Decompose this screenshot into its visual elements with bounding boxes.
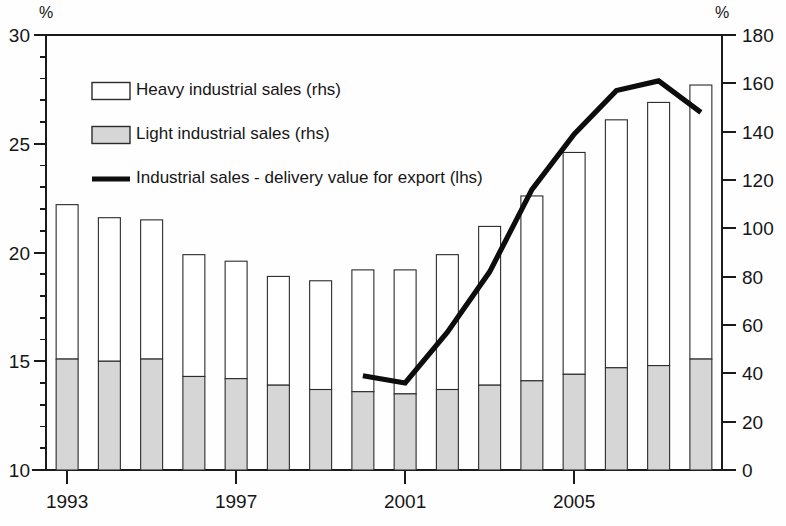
left-axis-unit-label: % [39,4,53,21]
bar-light-segment [479,385,501,470]
bar-heavy-segment [310,281,332,390]
bar-heavy-segment [352,270,374,392]
bar-heavy-segment [521,196,543,381]
bar-light-segment [521,381,543,470]
bar-light-segment [690,359,712,470]
x-tick-label: 2001 [384,491,426,512]
right-tick-label: 80 [742,267,763,288]
left-tick-label: 20 [9,243,30,264]
right-tick-label: 100 [742,218,774,239]
bar-light-segment [648,366,670,470]
bar-heavy-segment [141,220,163,359]
x-axis-ticks: 1993199720012005 [46,470,595,512]
left-tick-label: 25 [9,134,30,155]
bar-light-segment [225,379,247,470]
bar-light-segment [563,374,585,470]
bar-heavy-segment [479,226,501,385]
chart-container: % % 1015202530 020406080100120140160180 … [0,0,786,526]
right-tick-label: 180 [742,25,774,46]
bar-light-segment [352,392,374,470]
bar-light-segment [310,390,332,470]
bar-heavy-segment [56,205,78,359]
right-tick-label: 120 [742,170,774,191]
left-tick-label: 15 [9,351,30,372]
left-tick-label: 30 [9,25,30,46]
bar-light-segment [605,368,627,470]
chart-legend: Heavy industrial sales (rhs)Light indust… [92,80,483,187]
bar-light-segment [267,385,289,470]
bar-heavy-segment [563,152,585,374]
right-tick-label: 40 [742,363,763,384]
right-tick-label: 160 [742,73,774,94]
bar-light-segment [56,359,78,470]
bar-light-segment [98,361,120,470]
legend-swatch-light-icon [92,127,130,144]
legend-item-label: Heavy industrial sales (rhs) [136,80,341,99]
right-tick-label: 0 [742,460,753,481]
bar-heavy-segment [605,120,627,368]
bar-light-segment [141,359,163,470]
legend-item-label: Industrial sales - delivery value for ex… [136,168,483,187]
bar-heavy-segment [183,255,205,377]
legend-swatch-heavy-icon [92,83,130,100]
left-axis-ticks: 1015202530 [9,25,46,481]
bar-heavy-segment [648,102,670,365]
bar-light-segment [183,376,205,470]
bar-heavy-segment [690,85,712,359]
right-axis-unit-label: % [715,4,729,21]
right-tick-label: 20 [742,412,763,433]
bar-heavy-segment [267,276,289,385]
right-tick-label: 140 [742,122,774,143]
right-tick-label: 60 [742,315,763,336]
bar-light-segment [436,390,458,470]
right-axis-ticks: 020406080100120140160180 [722,25,774,481]
chart-canvas: % % 1015202530 020406080100120140160180 … [0,0,786,526]
x-tick-label: 1993 [46,491,88,512]
axes-group [32,35,736,470]
x-tick-label: 2005 [553,491,595,512]
legend-item-label: Light industrial sales (rhs) [136,124,330,143]
x-tick-label: 1997 [215,491,257,512]
bar-light-segment [394,394,416,470]
bar-heavy-segment [98,218,120,362]
left-tick-label: 10 [9,460,30,481]
bar-heavy-segment [225,261,247,378]
